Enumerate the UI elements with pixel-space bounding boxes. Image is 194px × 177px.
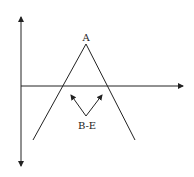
diagram-canvas: A B-E (0, 0, 194, 177)
arrow-label: B-E (78, 120, 96, 131)
right-arrow (86, 95, 102, 116)
peak-label: A (81, 32, 90, 43)
left-arrow (71, 95, 86, 116)
